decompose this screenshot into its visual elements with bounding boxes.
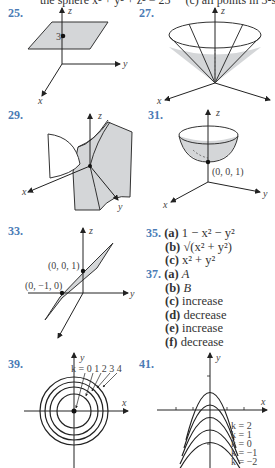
svg-text:x: x (121, 397, 127, 408)
svg-text:k = −2: k = −2 (231, 456, 257, 467)
figure-25-plane: 3 z y x (0, 0, 135, 105)
svg-text:z: z (88, 225, 93, 236)
svg-text:y: y (79, 352, 85, 363)
figure-33-plane: (0, 0, 1) (0, −1, 0) z y (0, 220, 140, 345)
svg-text:z: z (67, 5, 72, 16)
figure-27-cone: z x (135, 0, 275, 105)
svg-text:x: x (260, 396, 266, 407)
svg-text:z: z (215, 107, 220, 118)
answer-37d: (d) decrease (146, 309, 226, 323)
answers-37: 37. (a) A (b) B (c) increase (d) decreas… (146, 268, 226, 349)
svg-text:y: y (215, 352, 221, 363)
answer-37c: (c) increase (146, 295, 226, 309)
svg-text:z: z (97, 110, 102, 121)
svg-text:(0, −1, 0): (0, −1, 0) (25, 280, 62, 292)
svg-text:y: y (117, 201, 123, 212)
answers-35: 35. (a) 1 − x² − y² (b) √(x² + y²) (c) x… (146, 227, 235, 268)
svg-text:x: x (21, 186, 27, 197)
answer-35b: (b) √(x² + y²) (146, 241, 235, 255)
svg-text:3: 3 (56, 31, 61, 42)
svg-text:z: z (220, 5, 225, 16)
svg-text:x: x (162, 199, 168, 210)
answer-35a: 35. (a) 1 − x² − y² (146, 227, 235, 241)
figure-39-level-circles: k = 0 1 2 3 4 y x (0, 345, 140, 468)
svg-text:y: y (122, 58, 128, 69)
figure-31-paraboloid: (0, 0, 1) z y x (135, 102, 275, 212)
figure-41-level-parabolas: y x k = 2 k = 1 k = 0 k = −1 k = −2 (135, 345, 275, 468)
svg-text:(0, 0, 1): (0, 0, 1) (48, 260, 80, 272)
svg-text:y: y (129, 288, 135, 299)
answer-37b: (b) B (146, 282, 226, 296)
svg-text:k = 0 1 2 3 4: k = 0 1 2 3 4 (71, 363, 122, 374)
answer-37e: (e) increase (146, 322, 226, 336)
answer-37a: 37. (a) A (146, 268, 226, 282)
answer-35c: (c) x² + y² (146, 254, 235, 268)
svg-text:(0, 0, 1): (0, 0, 1) (212, 166, 244, 178)
svg-text:y: y (262, 188, 268, 199)
figure-29-saddle: z x y (0, 102, 140, 212)
